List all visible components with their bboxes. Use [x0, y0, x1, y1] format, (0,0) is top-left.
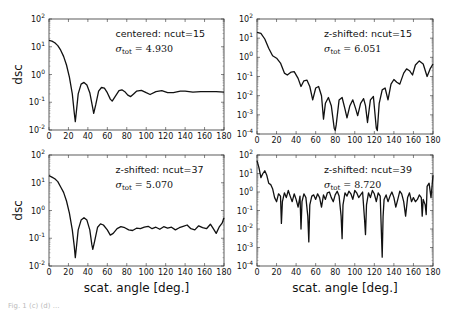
y-tick-label: 102: [31, 12, 45, 24]
y-tick-label: 101: [239, 31, 253, 43]
figure-2x2: 02040608010012014016018010-210-110010110…: [0, 0, 455, 311]
x-tick-label: 80: [122, 132, 132, 141]
x-tick-label: 60: [102, 268, 112, 277]
y-tick-label: 10-3: [237, 241, 253, 253]
x-tick-label: 160: [406, 136, 421, 145]
y-tick-label: 10-3: [237, 108, 253, 120]
x-tick-label: 180: [425, 136, 440, 145]
chart-panel-bottom-left: 02040608010012014016018010-210-110010110…: [11, 148, 232, 295]
y-tick-label: 101: [31, 40, 45, 52]
x-tick-label: 20: [271, 136, 281, 145]
y-tick-label: 10-2: [29, 259, 45, 271]
y-axis-label: dsc: [11, 64, 25, 84]
x-tick-label: 0: [46, 132, 51, 141]
x-tick-label: 0: [254, 268, 259, 277]
y-tick-label: 10-1: [29, 231, 45, 243]
x-tick-label: 160: [197, 132, 212, 141]
chart-panel-top-right: 02040608010012014016018010-410-310-210-1…: [237, 12, 441, 145]
dsc-curve: [257, 161, 433, 258]
chart-panel-bottom-right: 02040608010012014016018010-410-310-210-1…: [237, 148, 441, 295]
x-tick-label: 100: [347, 268, 362, 277]
y-tick-label: 100: [239, 50, 253, 62]
sigma-tot-label: σtot = 6.051: [324, 43, 382, 56]
panel-annotation: z-shifted: ncut=39: [324, 164, 412, 175]
x-tick-label: 120: [367, 136, 382, 145]
x-tick-label: 100: [139, 132, 154, 141]
x-tick-label: 40: [83, 268, 93, 277]
x-tick-label: 20: [271, 268, 281, 277]
x-tick-label: 80: [330, 136, 340, 145]
chart-panel-top-left: 02040608010012014016018010-210-110010110…: [11, 12, 232, 141]
x-tick-label: 20: [63, 268, 73, 277]
x-tick-label: 180: [216, 132, 231, 141]
x-tick-label: 60: [102, 132, 112, 141]
x-tick-label: 140: [386, 268, 401, 277]
y-tick-label: 100: [31, 68, 45, 80]
x-tick-label: 60: [311, 268, 321, 277]
x-tick-label: 160: [406, 268, 421, 277]
y-axis-label: dsc: [11, 200, 25, 220]
y-tick-label: 10-4: [237, 259, 253, 271]
y-tick-label: 10-2: [237, 222, 253, 234]
x-tick-label: 60: [311, 136, 321, 145]
y-tick-label: 10-1: [237, 204, 253, 216]
x-tick-label: 80: [330, 268, 340, 277]
y-tick-label: 101: [31, 176, 45, 188]
figure-caption-partial: Fig. 1 (c) (d) ...: [8, 302, 59, 310]
y-tick-label: 10-4: [237, 127, 253, 139]
y-tick-label: 10-2: [237, 89, 253, 101]
x-tick-label: 140: [177, 268, 192, 277]
x-tick-label: 100: [139, 268, 154, 277]
x-tick-label: 0: [46, 268, 51, 277]
sigma-tot-label: σtot = 4.930: [116, 43, 174, 56]
x-tick-label: 180: [216, 268, 231, 277]
y-tick-label: 102: [31, 148, 45, 160]
y-tick-label: 100: [239, 185, 253, 197]
y-tick-label: 10-2: [29, 123, 45, 135]
y-tick-label: 101: [239, 167, 253, 179]
x-tick-label: 120: [158, 132, 173, 141]
y-tick-label: 10-1: [29, 95, 45, 107]
x-tick-label: 180: [425, 268, 440, 277]
panel-annotation: centered: ncut=15: [116, 28, 206, 39]
y-tick-label: 102: [239, 148, 253, 160]
y-tick-label: 100: [31, 204, 45, 216]
y-tick-label: 10-1: [237, 70, 253, 82]
x-tick-label: 40: [83, 132, 93, 141]
sigma-tot-label: σtot = 5.070: [116, 179, 174, 192]
x-tick-label: 40: [291, 136, 301, 145]
x-tick-label: 40: [291, 268, 301, 277]
x-tick-label: 100: [347, 136, 362, 145]
x-tick-label: 120: [367, 268, 382, 277]
x-tick-label: 160: [197, 268, 212, 277]
x-tick-label: 120: [158, 268, 173, 277]
x-tick-label: 20: [63, 132, 73, 141]
panel-annotation: z-shifted: ncut=37: [116, 164, 204, 175]
x-tick-label: 140: [386, 136, 401, 145]
x-tick-label: 0: [254, 136, 259, 145]
y-tick-label: 102: [239, 12, 253, 24]
panel-annotation: z-shifted: ncut=15: [324, 28, 412, 39]
x-axis-label: scat. angle [deg.]: [84, 281, 189, 295]
x-tick-label: 140: [177, 132, 192, 141]
x-axis-label: scat. angle [deg.]: [292, 281, 397, 295]
x-tick-label: 80: [122, 268, 132, 277]
